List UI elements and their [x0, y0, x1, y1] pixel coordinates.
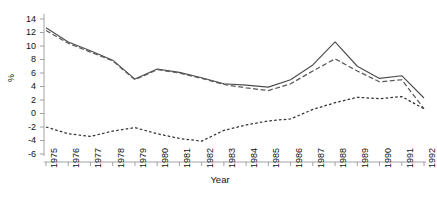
- axis-ticks: [40, 19, 424, 166]
- y-tick-label: 2: [10, 96, 36, 105]
- x-tick-label: 1977: [94, 156, 103, 168]
- x-tick-label: 1983: [228, 156, 237, 168]
- x-tick-label: 1975: [50, 156, 59, 168]
- y-tick-label: 6: [10, 69, 36, 78]
- y-tick-label: 10: [10, 42, 36, 51]
- y-tick-label: 0: [10, 109, 36, 118]
- x-tick-label: 1986: [295, 156, 304, 168]
- axis-lines: [44, 14, 426, 162]
- x-tick-label: 1990: [384, 156, 393, 168]
- x-tick-label: 1988: [339, 156, 348, 168]
- x-tick-label: 1992: [428, 156, 437, 168]
- y-tick-label: 4: [10, 82, 36, 91]
- x-tick-label: 1978: [117, 156, 126, 168]
- x-tick-label: 1985: [272, 156, 281, 168]
- y-tick-label: 14: [10, 15, 36, 24]
- y-tick-label: -6: [10, 150, 36, 159]
- x-tick-label: 1981: [183, 156, 192, 168]
- x-tick-label: 1979: [139, 156, 148, 168]
- series-line-dotted-line: [46, 97, 424, 142]
- x-tick-label: 1991: [406, 156, 415, 168]
- x-tick-label: 1984: [250, 156, 259, 168]
- x-tick-label: 1987: [317, 156, 326, 168]
- series-line-solid-line: [46, 28, 424, 98]
- y-tick-label: 8: [10, 55, 36, 64]
- x-tick-label: 1989: [361, 156, 370, 168]
- y-tick-label: -2: [10, 123, 36, 132]
- x-tick-label: 1982: [206, 156, 215, 168]
- y-tick-label: 12: [10, 28, 36, 37]
- y-tick-label: -4: [10, 136, 36, 145]
- series-line-dashed-line: [46, 30, 424, 108]
- data-series: [46, 28, 424, 141]
- x-tick-label: 1976: [72, 156, 81, 168]
- x-tick-label: 1980: [161, 156, 170, 168]
